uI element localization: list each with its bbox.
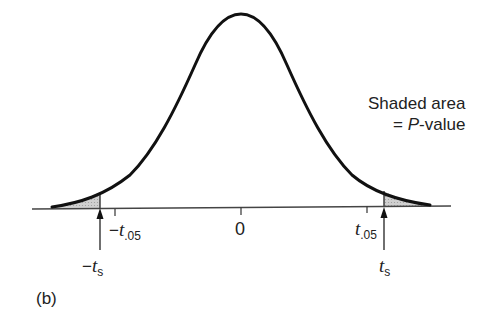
minus-sign: −: [82, 257, 92, 276]
density-plot: [0, 0, 491, 328]
label-pos-t05: t.05: [355, 219, 377, 238]
subscript: .05: [360, 228, 377, 242]
panel-label: (b): [36, 290, 57, 307]
subscript: s: [384, 265, 390, 279]
subscript: s: [97, 265, 103, 279]
label-pos-ts: ts: [379, 256, 390, 275]
p-symbol: P: [408, 115, 419, 134]
arrow-neg-ts: [97, 208, 104, 250]
shaded-area-annotation: Shaded area = P-value: [368, 93, 465, 135]
annotation-line-2: = P-value: [368, 114, 465, 135]
label-neg-ts: −ts: [82, 256, 103, 275]
arrow-pos-ts: [381, 207, 388, 250]
label-zero: 0: [235, 220, 245, 238]
subscript: .05: [124, 229, 141, 243]
label-neg-t05: −t.05: [109, 220, 141, 239]
equals-sign: =: [393, 115, 408, 134]
value-suffix: -value: [419, 115, 465, 134]
minus-sign: −: [109, 221, 119, 240]
t-distribution-figure: −t.05 0 t.05 −ts ts Shaded area = P-valu…: [0, 0, 491, 328]
annotation-line-1: Shaded area: [368, 93, 465, 114]
